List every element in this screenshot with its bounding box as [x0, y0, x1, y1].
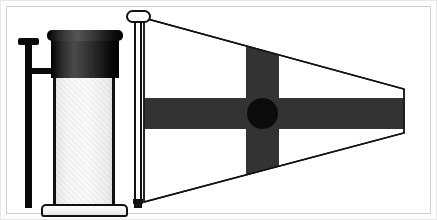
pennant-banner	[142, 16, 431, 202]
flag-illustration	[126, 8, 431, 212]
illustration-canvas	[0, 0, 437, 220]
jar-illustration	[14, 26, 124, 208]
jar-lid-rim	[47, 30, 123, 41]
pennant-centre-disc	[247, 98, 278, 129]
jar-base	[41, 204, 128, 217]
side-post-stem-icon	[25, 42, 32, 208]
flag-pole	[134, 18, 142, 208]
flag-pole-eye-icon	[126, 10, 151, 23]
